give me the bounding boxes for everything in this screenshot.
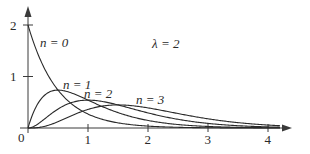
x-axis-arrow-icon — [282, 125, 292, 132]
lambda-annotation: λ = 2 — [151, 36, 180, 51]
chart-container: 123412 0 λ = 2 n = 0 n = 1 n = 2 n = 3 — [0, 0, 310, 154]
x-tick-label: 4 — [265, 132, 272, 147]
y-tick-label: 1 — [10, 69, 17, 84]
curve-n3 — [28, 105, 280, 128]
chart-svg: 123412 0 λ = 2 n = 0 n = 1 n = 2 n = 3 — [0, 0, 310, 154]
x-tick-label: 2 — [145, 132, 152, 147]
y-axis-arrow-icon — [25, 6, 32, 17]
curve-label-n2: n = 2 — [84, 86, 113, 101]
curve-label-n0: n = 0 — [40, 35, 69, 50]
x-tick-label: 1 — [85, 132, 92, 147]
y-tick-label: 2 — [10, 18, 17, 33]
x-tick-label: 3 — [205, 132, 212, 147]
curve-label-n3: n = 3 — [136, 92, 165, 107]
origin-label: 0 — [18, 130, 25, 145]
